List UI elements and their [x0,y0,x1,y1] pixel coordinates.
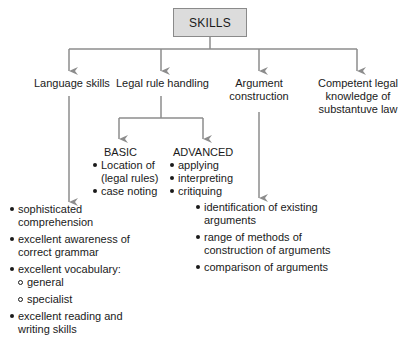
category-label-line: substantuve law [312,103,404,116]
list-item: excellent reading and writing skills [9,310,139,336]
category-legal-rule-handling: Legal rule handling [116,77,208,90]
list-item: interpreting [169,172,249,185]
subnode-title: BASIC [104,146,162,159]
list-item: case noting [92,185,162,198]
category-label-line: Competent legal [312,77,404,90]
subnode-advanced: ADVANCED applying interpreting critiquin… [169,146,249,198]
list-item: range of methods of construction of argu… [195,231,355,257]
list-item: applying [169,159,249,172]
list-item: Location of (legal rules) [92,159,162,185]
category-language-skills: Language skills [34,77,106,90]
language-skills-list: sophisticated comprehension excellent aw… [9,203,139,339]
category-label-line: knowledge of [312,90,404,103]
category-substantive-law: Competent legal knowledge of substantuve… [312,77,404,116]
list-item: excellent awareness of correct grammar [9,233,139,259]
root-node-skills: SKILLS [173,8,247,37]
subnode-basic: BASIC Location of (legal rules) case not… [92,146,162,198]
list-item: critiquing [169,185,249,198]
category-argument-construction: Argument construction [222,77,296,103]
category-label: Legal rule handling [116,77,209,89]
list-item: sophisticated comprehension [9,203,139,229]
sub-list-item: specialist [18,293,139,306]
subnode-title: ADVANCED [173,146,249,159]
argument-construction-list: identification of existing arguments ran… [195,201,355,278]
sub-list-item: general [18,276,139,289]
list-item: identification of existing arguments [195,201,355,227]
list-item: comparison of arguments [195,261,355,274]
category-label-line: Argument [222,77,296,90]
category-label: Language skills [34,77,110,89]
root-label: SKILLS [189,16,231,30]
category-label-line: construction [222,90,296,103]
list-item: excellent vocabulary: general specialist [9,263,139,306]
